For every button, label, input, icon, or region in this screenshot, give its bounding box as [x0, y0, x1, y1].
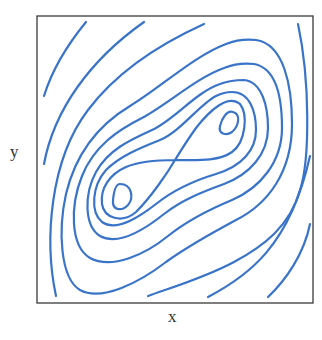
contour-plot — [0, 0, 322, 340]
contour-lines — [44, 22, 310, 297]
contour-small-loop-left — [113, 184, 131, 209]
contour-small-loop-right — [220, 112, 238, 134]
contour-open-top-left-2 — [44, 22, 144, 164]
contour-orbit-3 — [74, 64, 282, 263]
y-axis-label: y — [10, 142, 19, 162]
x-axis-label: x — [168, 307, 177, 327]
contour-orbit-4 — [62, 40, 292, 294]
